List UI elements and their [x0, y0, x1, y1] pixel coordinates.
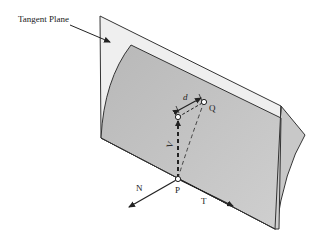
tangent-plane-diagram: Tangent Plane P Q d V N T [0, 0, 322, 243]
point-p-label: P [175, 185, 180, 195]
point-q [201, 99, 206, 104]
distance-d-label: d [183, 92, 188, 102]
tangent-plane-label: Tangent Plane [18, 14, 69, 24]
normal-n-label: N [136, 183, 143, 193]
point-v-tip [175, 114, 180, 119]
point-q-label: Q [209, 103, 216, 113]
diagram-canvas: Tangent Plane P Q d V N T [0, 0, 322, 243]
point-p [175, 176, 180, 181]
tangent-t-label: T [201, 196, 207, 206]
